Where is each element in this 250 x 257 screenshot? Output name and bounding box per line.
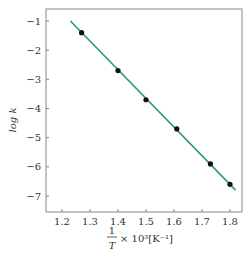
y-tick-label: −6 — [26, 161, 41, 172]
x-tick-label: 1.2 — [54, 216, 70, 227]
plot-frame — [46, 9, 242, 212]
y-tick-label: −5 — [26, 132, 41, 143]
data-point — [79, 30, 84, 35]
x-tick-label: 1.8 — [222, 216, 238, 227]
y-axis-label: log k — [7, 108, 18, 133]
y-tick-label: −2 — [26, 45, 41, 56]
x-tick-label: 1.6 — [166, 216, 182, 227]
data-point — [227, 182, 232, 187]
y-tick-label: −1 — [26, 16, 41, 27]
data-point — [174, 126, 179, 131]
data-point — [208, 161, 213, 166]
y-tick-label: −4 — [26, 103, 41, 114]
x-tick-label: 1.3 — [82, 216, 98, 227]
data-point — [143, 97, 148, 102]
svg-text:T: T — [109, 240, 117, 251]
data-point — [115, 68, 120, 73]
svg-text:× 10³[K⁻¹]: × 10³[K⁻¹] — [120, 233, 173, 244]
chart: −1−2−3−4−5−6−7 1.21.31.41.51.61.71.8 log… — [0, 0, 250, 257]
x-tick-label: 1.7 — [194, 216, 210, 227]
x-tick-label: 1.5 — [138, 216, 154, 227]
y-tick-label: −3 — [26, 74, 41, 85]
svg-text:1: 1 — [109, 225, 115, 236]
y-tick-label: −7 — [26, 191, 41, 202]
x-axis-label: 1 T × 10³[K⁻¹] — [107, 225, 173, 251]
plot-series — [70, 21, 235, 190]
